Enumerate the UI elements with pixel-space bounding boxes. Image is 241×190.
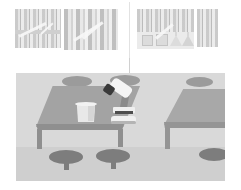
filmstrip-divider: [129, 2, 130, 66]
beaker-rim: [75, 102, 97, 106]
stool-seat: [199, 148, 225, 161]
table-top: [164, 89, 225, 135]
pointer-line: [129, 58, 130, 74]
microscope-stage-clip: [115, 111, 133, 114]
screenshot-root: [0, 0, 241, 190]
flask-neck-icon: [175, 32, 177, 36]
table-leg: [165, 127, 170, 149]
microscope: [102, 81, 142, 127]
flask-icon: [182, 35, 194, 46]
table-leg: [37, 129, 42, 149]
glassware-shelf: [137, 32, 194, 49]
thumbnail-filmstrip: [0, 0, 241, 58]
blinds-pattern-icon: [197, 9, 218, 47]
lab-scene: [16, 73, 225, 181]
table-leg: [118, 129, 123, 147]
thumbnail-1[interactable]: [15, 9, 61, 48]
stool-seat: [186, 77, 213, 87]
stool-leg: [111, 161, 116, 169]
stool-leg: [64, 162, 69, 170]
flask-icon: [170, 35, 182, 46]
thumbnail-2[interactable]: [64, 9, 118, 50]
beaker: [75, 102, 97, 122]
table-edge: [164, 122, 225, 128]
lab-table-right: [164, 89, 225, 149]
thumbnail-3[interactable]: [137, 9, 194, 49]
flask-neck-icon: [187, 32, 189, 36]
thumbnail-4[interactable]: [197, 9, 218, 47]
beaker-icon: [142, 35, 153, 46]
microscope-base-shadow: [111, 121, 136, 124]
